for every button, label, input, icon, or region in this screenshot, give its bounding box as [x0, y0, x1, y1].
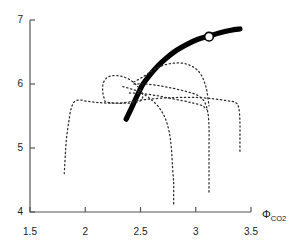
x-axis-label-group: ΦCO2	[262, 208, 286, 223]
y-tick-label: 5	[17, 142, 23, 153]
series-dotted-curve-right-arc	[134, 84, 209, 194]
y-tick-label: 6	[17, 78, 23, 89]
x-tick-label: 2.5	[134, 226, 148, 237]
series-dotted-curve-left	[64, 97, 240, 173]
data-markers-group	[205, 32, 214, 41]
x-tick-label: 1.5	[23, 226, 37, 237]
axis-lines	[30, 20, 251, 212]
data-series-group	[64, 29, 240, 206]
chart-figure: 45671.522.533.5 ΦCO2	[0, 0, 304, 251]
chart-plot-area: 45671.522.533.5 ΦCO2	[0, 0, 304, 251]
tick-labels-group: 45671.522.533.5	[17, 14, 258, 237]
y-tick-label: 4	[17, 206, 23, 217]
axes	[30, 20, 251, 212]
y-tick-label: 7	[17, 14, 23, 25]
marker-highlight-point	[205, 32, 214, 41]
x-axis-label: ΦCO2	[262, 208, 286, 223]
x-tick-label: 2	[82, 226, 88, 237]
series-dotted-curve-inner-diagonal	[129, 93, 206, 110]
x-tick-label: 3.5	[244, 226, 258, 237]
x-tick-label: 3	[193, 226, 199, 237]
series-main-bold-curve	[126, 29, 240, 119]
